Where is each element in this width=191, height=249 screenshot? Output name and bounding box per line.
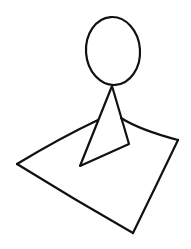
drawing-canvas: Hand-drawn stick figure with round head … — [0, 0, 191, 249]
ground-square-top-right-edge — [121, 118, 178, 140]
ground-square-left-edge — [17, 120, 98, 164]
stick-figure-drawing — [0, 0, 191, 249]
head-circle — [84, 15, 143, 87]
ground-square-bottom-left-edge — [17, 164, 133, 233]
ground-square-bottom-right-edge — [133, 140, 178, 233]
